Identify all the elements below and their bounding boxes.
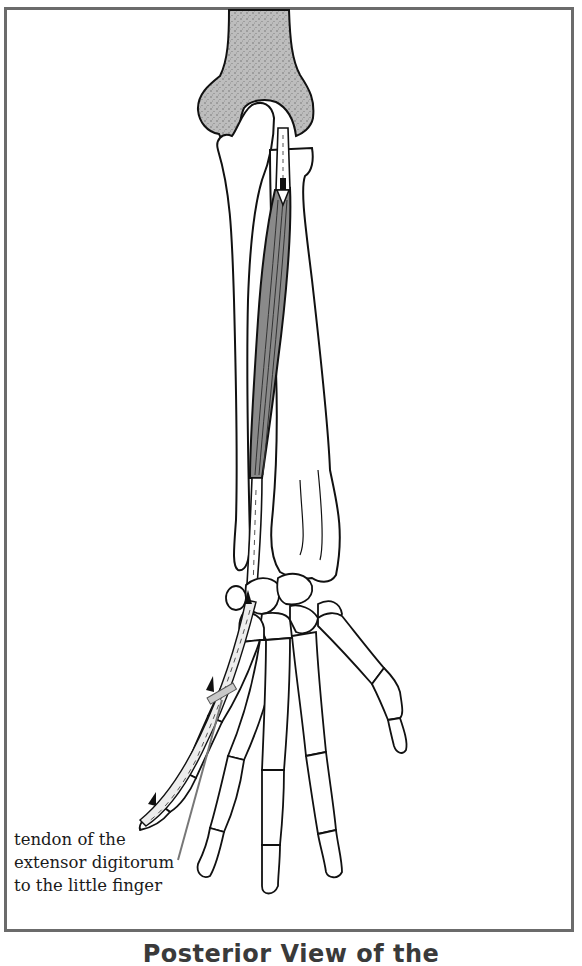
label-line: tendon of the bbox=[14, 828, 174, 851]
arrow-up-icon bbox=[148, 792, 156, 806]
arrow-up-icon bbox=[206, 676, 214, 692]
index-finger-bones bbox=[292, 632, 342, 877]
thumb-bones bbox=[318, 613, 407, 753]
middle-finger-bones bbox=[262, 638, 290, 894]
label-extensor-tendon-little-finger: tendon of the extensor digitorum to the … bbox=[14, 828, 174, 897]
figure-caption: Posterior View of the bbox=[0, 939, 582, 966]
label-line: extensor digitorum bbox=[14, 851, 174, 874]
label-line: to the little finger bbox=[14, 874, 174, 897]
